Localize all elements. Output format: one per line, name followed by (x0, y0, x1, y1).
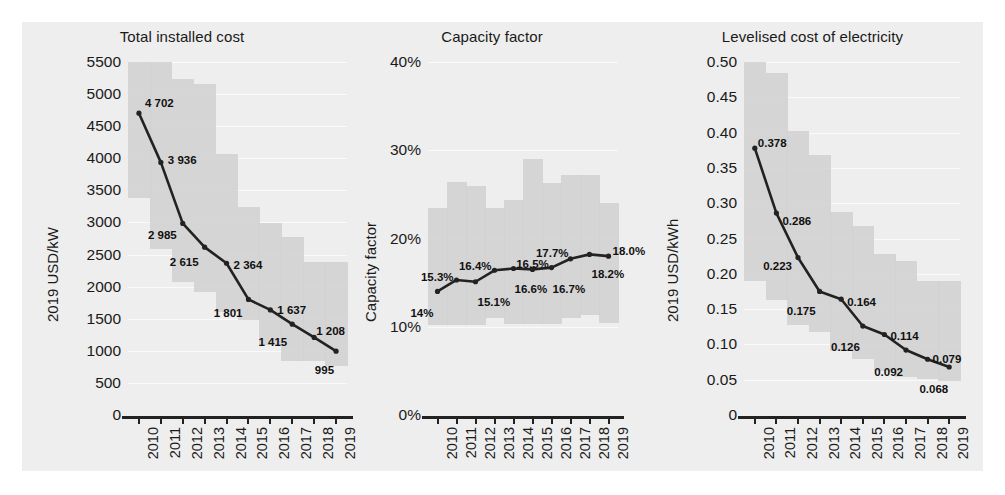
x-axis-tick-label: 2011 (782, 427, 798, 458)
y-axis-tick-label: 0.50 (707, 53, 737, 71)
x-axis-tick-mark (335, 419, 337, 424)
x-axis-tick-mark (475, 419, 477, 424)
x-axis-tick-label: 2016 (890, 427, 906, 459)
x-axis-tick-label: 2018 (934, 427, 950, 459)
x-axis-tick-mark (532, 419, 534, 424)
x-axis-tick-mark (570, 419, 572, 424)
data-point-label: 3 936 (168, 154, 197, 166)
x-axis-tick-mark (589, 419, 591, 424)
x-axis-tick-mark (494, 419, 496, 424)
x-axis-tick-label: 2011 (167, 427, 183, 458)
x-axis-tick-mark (204, 419, 206, 424)
x-axis-tick-mark (754, 419, 756, 424)
x-axis-tick-label: 2016 (276, 427, 292, 459)
data-point-label: 1 801 (214, 307, 243, 319)
data-point-label: 18.0% (613, 245, 646, 257)
y-axis-tick-label: 20% (390, 230, 421, 248)
plot-area (428, 62, 618, 415)
y-axis-tick-label: 5000 (87, 85, 121, 103)
x-axis-tick-label: 2018 (596, 427, 612, 459)
data-point-label: 15.3% (421, 271, 454, 283)
x-axis-tick-label: 2013 (826, 427, 842, 459)
x-axis-tick-label: 2014 (847, 427, 863, 459)
y-axis-tick-label: 4500 (87, 117, 121, 135)
data-point-label: 2 985 (148, 229, 177, 241)
x-axis-tick-label: 2012 (189, 427, 205, 459)
x-axis-tick-label: 2019 (615, 427, 631, 459)
y-axis-label: 2019 USD/kWh (664, 219, 681, 322)
x-axis-tick-mark (905, 419, 907, 424)
y-axis-tick-label: 0.25 (707, 230, 737, 248)
data-point-label: 2 615 (170, 256, 199, 268)
x-axis-tick-mark (456, 419, 458, 424)
x-axis-tick-label: 2010 (444, 427, 460, 459)
y-axis-tick-label: 0 (728, 406, 737, 424)
x-axis-tick-label: 2015 (539, 427, 555, 459)
data-point-label: 0.164 (847, 296, 876, 308)
x-axis-line (738, 416, 966, 419)
x-axis-tick-label: 2017 (912, 427, 928, 459)
panel-title: Total installed cost (22, 28, 342, 45)
x-axis-tick-mark (797, 419, 799, 424)
x-axis-tick-label: 2013 (501, 427, 517, 459)
data-point-label: 16.6% (515, 283, 548, 295)
weighted-average-line (744, 62, 960, 415)
y-axis-tick-label: 4000 (87, 149, 121, 167)
data-point-label: 2 364 (234, 259, 263, 271)
data-point-label: 17.7% (536, 247, 569, 259)
x-axis-tick-label: 2017 (577, 427, 593, 459)
data-point-label: 0.223 (763, 260, 792, 272)
data-point-label: 1 208 (316, 325, 345, 337)
x-axis-line (122, 416, 353, 419)
x-axis-tick-mark (551, 419, 553, 424)
y-axis-tick-label: 0.30 (707, 194, 737, 212)
data-point-label: 15.1% (478, 296, 511, 308)
data-point-label: 0.286 (782, 215, 811, 227)
y-axis-tick-label: 0.40 (707, 124, 737, 142)
x-axis-tick-label: 2010 (761, 427, 777, 459)
y-axis-tick-label: 0.45 (707, 88, 737, 106)
y-axis-tick-label: 2500 (87, 246, 121, 264)
y-axis-label: Capacity factor (362, 222, 379, 322)
data-point-label: 0.068 (919, 383, 948, 395)
y-axis-label: 2019 USD/kW (44, 227, 61, 322)
y-axis-tick-label: 0 (112, 406, 121, 424)
x-axis-tick-label: 2012 (804, 427, 820, 459)
data-point-label: 16.7% (553, 283, 586, 295)
x-axis-tick-mark (182, 419, 184, 424)
x-axis-line (422, 416, 624, 419)
plot-area (744, 62, 960, 415)
panel-title: Capacity factor (342, 28, 642, 45)
x-axis-tick-label: 2016 (558, 427, 574, 459)
x-axis-tick-mark (313, 419, 315, 424)
y-axis-tick-label: 1000 (87, 342, 121, 360)
data-point-label: 16.4% (459, 260, 492, 272)
y-axis-tick-label: 2000 (87, 278, 121, 296)
x-axis-tick-mark (513, 419, 515, 424)
y-axis-tick-label: 1500 (87, 310, 121, 328)
x-axis-tick-mark (247, 419, 249, 424)
y-axis-tick-label: 0.05 (707, 371, 737, 389)
x-axis-tick-mark (840, 419, 842, 424)
x-axis-tick-label: 2015 (254, 427, 270, 459)
x-axis-tick-label: 2014 (233, 427, 249, 459)
data-point-label: 0.126 (831, 341, 860, 353)
y-axis-tick-label: 5500 (87, 53, 121, 71)
x-axis-tick-mark (927, 419, 929, 424)
x-axis-tick-label: 2011 (463, 427, 479, 458)
x-axis-tick-mark (291, 419, 293, 424)
x-axis-tick-label: 2010 (145, 427, 161, 459)
x-axis-tick-label: 2014 (520, 427, 536, 459)
x-axis-tick-label: 2013 (211, 427, 227, 459)
x-axis-tick-mark (883, 419, 885, 424)
data-point-label: 0.092 (874, 366, 903, 378)
x-axis-tick-label: 2015 (869, 427, 885, 459)
data-point-label: 18.2% (592, 268, 625, 280)
y-axis-tick-label: 0.10 (707, 335, 737, 353)
panel-title: Levelised cost of electricity (642, 28, 983, 45)
y-axis-tick-label: 0.15 (707, 300, 737, 318)
x-axis-tick-mark (160, 419, 162, 424)
x-axis-tick-mark (269, 419, 271, 424)
y-axis-tick-label: 3000 (87, 213, 121, 231)
y-axis-tick-label: 0.35 (707, 159, 737, 177)
